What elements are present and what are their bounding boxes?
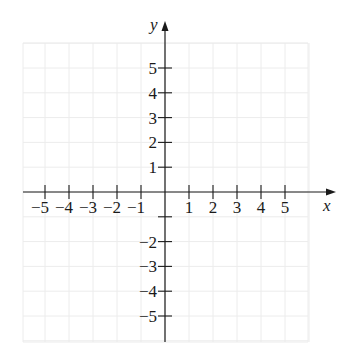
x-tick-label: 3 — [233, 198, 242, 217]
y-tick-label: 2 — [149, 133, 158, 152]
x-ticks: −5−4−3−2−112345 — [31, 185, 289, 217]
x-tick-label: 2 — [209, 198, 218, 217]
axes: x y — [23, 15, 336, 342]
y-tick-label: −3 — [139, 257, 157, 276]
coordinate-plane: x y −5−4−3−2−112345 54321−2−3−4−5 — [0, 0, 348, 357]
y-tick-label: 4 — [149, 84, 158, 103]
x-tick-label: −5 — [31, 198, 49, 217]
x-axis-label: x — [322, 196, 331, 215]
x-tick-label: −1 — [127, 198, 145, 217]
y-tick-label: −4 — [139, 282, 158, 301]
y-tick-label: −5 — [139, 307, 157, 326]
y-tick-label: −2 — [139, 233, 157, 252]
x-tick-label: −3 — [79, 198, 97, 217]
x-tick-label: −2 — [103, 198, 121, 217]
y-tick-label: 3 — [149, 109, 158, 128]
y-axis-label: y — [148, 15, 158, 34]
y-axis-arrow-icon — [162, 21, 169, 31]
y-tick-label: 1 — [149, 158, 158, 177]
x-axis-arrow-icon — [326, 189, 336, 196]
x-tick-label: 5 — [281, 198, 290, 217]
x-tick-label: −4 — [55, 198, 74, 217]
x-tick-label: 1 — [185, 198, 194, 217]
x-tick-label: 4 — [257, 198, 266, 217]
y-tick-label: 5 — [149, 59, 158, 78]
